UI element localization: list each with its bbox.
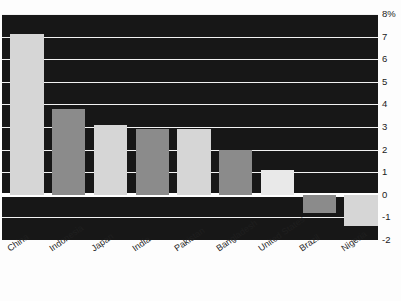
y-axis-tick-label: 6 <box>382 54 387 64</box>
bar <box>10 34 43 194</box>
y-axis-tick-label: 5 <box>382 77 387 87</box>
bar <box>94 125 127 195</box>
bar <box>52 109 85 195</box>
bar <box>261 170 294 195</box>
bar <box>219 150 252 195</box>
bar <box>136 129 169 195</box>
y-axis-tick-label: 8% <box>382 9 396 19</box>
gridline <box>2 217 378 218</box>
y-axis-tick-label: 7 <box>382 32 387 42</box>
y-axis-tick-label: 0 <box>382 190 387 200</box>
bar <box>344 195 377 227</box>
gridline <box>2 14 378 15</box>
gridline <box>2 59 378 60</box>
gridline <box>2 82 378 83</box>
bar <box>177 129 210 195</box>
y-axis-tick-label: -1 <box>382 213 390 223</box>
x-axis: ChinaIndonesiaJapanIndiaPakistanBanglade… <box>0 240 401 301</box>
y-axis-tick-label: 4 <box>382 100 387 110</box>
y-axis-tick-label: 1 <box>382 167 387 177</box>
bar <box>303 195 336 213</box>
gridline <box>2 37 378 38</box>
gridline <box>2 104 378 105</box>
bar-chart: 8%76543210-1-2 ChinaIndonesiaJapanIndiaP… <box>0 0 401 301</box>
plot-area <box>2 14 378 240</box>
y-axis-tick-label: 3 <box>382 122 387 132</box>
y-axis-tick-label: 2 <box>382 145 387 155</box>
